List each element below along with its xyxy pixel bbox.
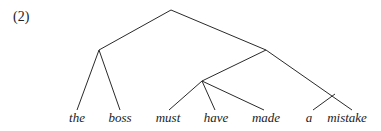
tree-edge-obj-a [313,94,335,110]
tree-edge-aux-made [202,81,264,110]
leaf-have: have [204,110,229,125]
leaf-the: the [69,110,85,125]
syntax-tree: (2) thebossmusthavemadeamistake [0,0,381,131]
tree-leaves: thebossmusthavemadeamistake [69,110,367,125]
tree-edge-root-pred [171,10,266,50]
tree-edge-subj-boss [99,50,120,110]
tree-edge-subj-the [77,50,99,110]
tree-edge-aux-must [169,81,202,110]
tree-edge-aux-have [202,81,215,110]
tree-edge-pred-mistake [266,50,352,110]
example-number: (2) [13,9,30,25]
leaf-must: must [156,110,181,125]
leaf-boss: boss [108,110,131,125]
leaf-mistake: mistake [327,110,367,125]
leaf-a: a [306,110,313,125]
tree-edges [77,10,352,110]
leaf-made: made [252,110,280,125]
tree-edge-pred-aux [202,50,266,81]
tree-edge-root-subj [99,10,171,50]
